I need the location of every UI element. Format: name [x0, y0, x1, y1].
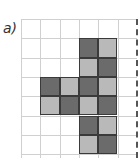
square-grid [21, 19, 137, 158]
grid-line-horizontal [21, 19, 137, 20]
shaded-cell-light [79, 96, 98, 115]
shaded-cell-dark [60, 96, 79, 115]
shaded-cell-light [98, 38, 117, 57]
shaded-cell-dark [79, 116, 98, 135]
shaded-cell-dark [98, 135, 117, 154]
shaded-cell-light [79, 58, 98, 77]
shaded-cell-dark [40, 77, 59, 96]
figure-label: a) [3, 19, 17, 37]
shaded-cell-light [40, 96, 59, 115]
grid-line-horizontal [21, 154, 137, 155]
shaded-cell-light [98, 116, 117, 135]
grid-line-vertical [118, 19, 119, 158]
grid-line-vertical [21, 19, 22, 158]
shaded-cell-dark [79, 38, 98, 57]
shaded-cell-dark [98, 96, 117, 115]
shaded-cell-light [98, 77, 117, 96]
shaded-cell-light [60, 77, 79, 96]
shaded-cell-dark [98, 58, 117, 77]
dashed-edge-line [136, 19, 138, 158]
shaded-cell-dark [79, 77, 98, 96]
shaded-cell-light [79, 135, 98, 154]
